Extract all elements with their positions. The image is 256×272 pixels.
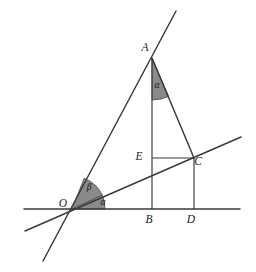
line-OC-extended [25,137,241,231]
point-label-D: D [186,213,196,225]
point-label-B: B [145,213,152,225]
line-OA-extended [43,11,176,261]
point-label-A: A [140,41,149,53]
geometry-figure: A B C D E O α β α [0,0,256,272]
point-label-O: O [59,197,68,209]
point-label-C: C [194,155,202,167]
angle-label-alpha-at-O: α [101,197,107,207]
geometry-diagram: A B C D E O α β α [0,0,256,272]
construction-lines [24,11,241,261]
segment-AC [152,58,194,158]
angle-label-beta-at-O: β [86,182,92,192]
point-label-E: E [134,150,142,162]
